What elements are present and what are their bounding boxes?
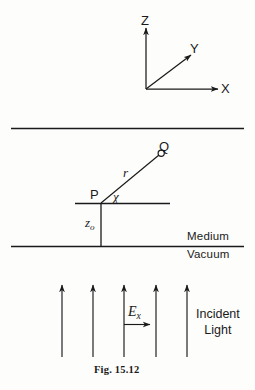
field-label-ex: Ex: [128, 305, 141, 321]
medium-label-lower: Vacuum: [187, 249, 230, 261]
radius-label-r: r: [123, 166, 128, 179]
incident-light-line2: Light: [204, 323, 231, 337]
figure-container: Z Y X P Q r χ zo Medium Vacuum Ex Incide…: [0, 0, 255, 390]
point-label-p: P: [90, 188, 99, 201]
radius-line-pq: [101, 155, 159, 203]
axis-label-z: Z: [141, 14, 149, 27]
incident-light-rays: [62, 285, 187, 357]
axis-label-x: X: [221, 82, 230, 95]
field-label-base: E: [128, 304, 137, 319]
radius-vector: [101, 150, 164, 203]
incident-light-label: IncidentLight: [196, 306, 240, 338]
medium-label-upper: Medium: [187, 231, 229, 243]
depth-label-subscript: o: [90, 222, 95, 232]
axis-label-y: Y: [190, 42, 199, 55]
axis-y-line: [146, 55, 191, 89]
figure-caption: Fig. 15.12: [94, 365, 139, 376]
incident-light-line1: Incident: [196, 307, 240, 321]
field-label-subscript: x: [137, 310, 141, 321]
point-label-q: Q: [159, 140, 169, 153]
coordinate-axes: [146, 28, 218, 89]
angle-label-chi: χ: [113, 190, 119, 203]
depth-label-z0: zo: [85, 216, 95, 232]
